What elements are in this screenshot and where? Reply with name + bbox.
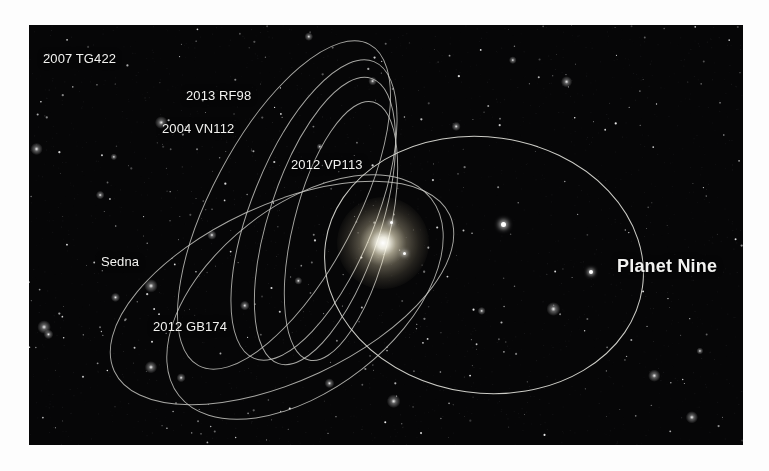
orbit-2012-gb174: [122, 126, 487, 445]
label-2007-tg422: 2007 TG422: [43, 52, 116, 66]
orbit-sedna: [77, 135, 487, 445]
label-2013-rf98: 2013 RF98: [186, 89, 251, 103]
label-planet-nine: Planet Nine: [617, 259, 717, 273]
label-2004-vn112: 2004 VN112: [162, 122, 234, 136]
figure-root: 2007 TG422 2013 RF98 2004 VN112 2012 VP1…: [0, 0, 769, 471]
inner-object-dot-a: [390, 221, 393, 224]
label-sedna: Sedna: [101, 255, 139, 269]
inner-object-dot-b: [403, 252, 406, 255]
label-2012-gb174: 2012 GB174: [153, 320, 227, 334]
sun-glow: [337, 197, 429, 289]
label-2012-vp113: 2012 VP113: [291, 158, 363, 172]
background-star: [501, 222, 506, 227]
planet-nine-dot: [589, 270, 593, 274]
starfield-panel: 2007 TG422 2013 RF98 2004 VN112 2012 VP1…: [29, 25, 743, 445]
